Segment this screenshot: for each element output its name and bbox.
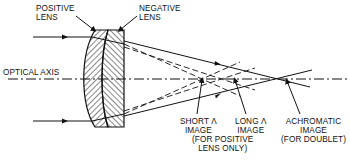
optical-axis-label: OPTICAL AXIS	[3, 68, 59, 77]
short-image-label: SHORT λ IMAGE	[180, 117, 217, 135]
negative-lens	[102, 30, 124, 127]
positive-lens-leader	[76, 16, 94, 30]
short-image-note: (FOR POSITIVE LENS ONLY)	[192, 135, 253, 153]
negative-lens-leader	[120, 16, 137, 30]
negative-lens-label: NEGATIVE LENS	[139, 4, 181, 22]
positive-lens-label: POSITIVE LENS	[36, 4, 75, 22]
achromatic-image-label: ACHROMATIC IMAGE (FOR DOUBLET)	[281, 117, 346, 144]
achromatic-image-leader	[287, 81, 300, 114]
long-wavelength-ray-bottom	[124, 68, 255, 111]
achromatic-ray-bottom	[124, 70, 312, 116]
long-image-label: LONG λ IMAGE	[235, 117, 267, 135]
